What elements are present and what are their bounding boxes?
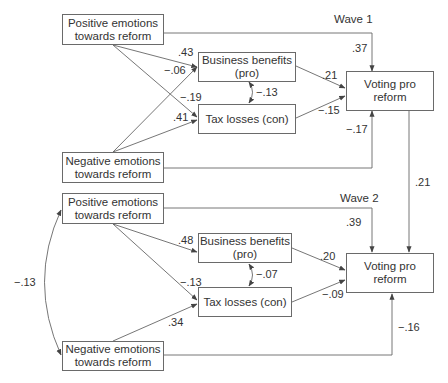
w2-pos-voting-coef: .39 [346,216,361,228]
w1-neg-voting-coef: −.17 [346,123,368,135]
w2-business-tax-corr: −.07 [256,268,278,280]
w1-business-voting-coef: .21 [322,69,337,81]
w2-pos-tax-coef: −.13 [180,276,202,288]
node-text: (pro) [200,248,290,261]
node-text: towards reform [65,356,160,369]
node-text: Positive emotions [68,196,158,209]
wave-1-label: Wave 1 [334,13,373,25]
node-text: Tax losses (con) [203,296,286,309]
w1-neg-tax-coef: .41 [173,111,188,123]
w2-neg-tax-coef: .34 [168,316,183,328]
w2-business-benefits-node: Business benefits(pro) [198,233,292,263]
w1-voting-node: Voting proreform [346,71,434,111]
node-text: Voting pro [364,260,416,273]
w2-business-voting-coef: .20 [320,250,335,262]
node-text: (pro) [202,67,292,80]
node-text: Negative emotions [65,343,160,356]
w2-voting-node: Voting proreform [346,253,434,293]
w2-tax-losses-node: Tax losses (con) [198,287,292,317]
node-text: reform [364,273,416,286]
w2-tax-voting-coef: −.09 [322,288,344,300]
w1-pos-business-coef: .43 [178,46,193,58]
w2-neg-voting-coef: −.16 [398,321,420,333]
node-text: Business benefits [200,235,290,248]
w1-business-benefits-node: Business benefits(pro) [198,52,296,82]
w2-pos-business-coef: .48 [178,234,193,246]
node-text: reform [364,91,416,104]
w2-negative-emotions-node: Negative emotionstowards reform [62,341,164,371]
w1-tax-voting-coef: −.15 [318,104,340,116]
node-text: Negative emotions [65,155,160,168]
w1-business-tax-corr: −.13 [256,86,278,98]
w2-positive-emotions-node: Positive emotionstowards reform [62,193,164,224]
wave-2-label: Wave 2 [340,192,379,204]
w1-negative-emotions-node: Negative emotionstowards reform [62,152,164,183]
w1-tax-losses-node: Tax losses (con) [198,104,296,134]
node-text: towards reform [65,168,160,181]
w1-pos-tax-coef: −.19 [180,91,202,103]
node-text: Voting pro [364,78,416,91]
w1-pos-voting-coef: .37 [352,42,367,54]
w2-pos-neg-corr: −.13 [14,276,36,288]
node-text: towards reform [68,209,158,222]
w1-positive-emotions-node: Positive emotionstowards reform [62,14,164,45]
node-text: Positive emotions [68,17,158,30]
node-text: Tax losses (con) [205,113,288,126]
w1-neg-business-coef: −.06 [164,64,186,76]
voting-stability-coef: .21 [415,176,430,188]
node-text: towards reform [68,30,158,43]
node-text: Business benefits [202,54,292,67]
